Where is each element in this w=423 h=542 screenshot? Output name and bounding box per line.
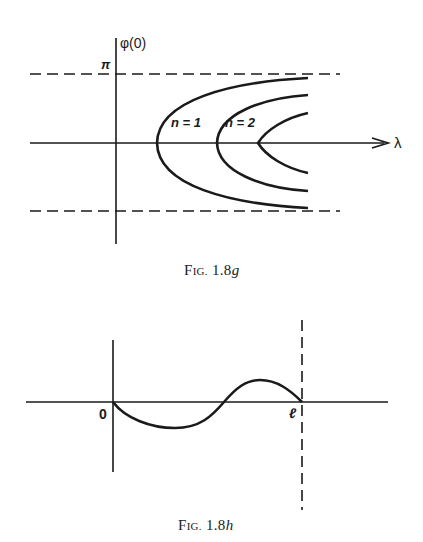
x-axis-label: λ: [394, 134, 402, 151]
caption-g-number: 1.8: [208, 262, 232, 278]
caption-g-prefix-small: IG.: [193, 265, 208, 277]
caption-g-prefix-big: F: [184, 262, 193, 278]
origin-label: 0: [99, 406, 107, 422]
figure-h-caption: FIG. 1.8h: [178, 517, 233, 534]
figure-g-caption: FIG. 1.8g: [184, 262, 239, 279]
ell-label: ℓ: [289, 405, 297, 421]
y-axis-label: φ(0): [120, 35, 146, 51]
pi-label: π: [101, 57, 111, 72]
caption-h-number: 1.8: [202, 517, 226, 533]
caption-h-letter: h: [226, 517, 234, 533]
caption-g-letter: g: [232, 262, 240, 278]
caption-h-prefix-small: IG.: [187, 520, 202, 532]
h-curve: [113, 380, 302, 428]
curve-label-n2: n = 2: [225, 115, 256, 130]
caption-h-prefix-big: F: [178, 517, 187, 533]
curve-label-n1: n = 1: [171, 115, 201, 130]
